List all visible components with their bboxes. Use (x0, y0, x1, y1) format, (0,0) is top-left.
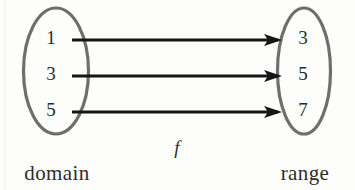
range-label: range (281, 161, 330, 185)
mapping-arrow-2 (72, 70, 282, 82)
domain-element-1: 3 (46, 63, 56, 84)
domain-element-0: 1 (46, 27, 56, 48)
function-label: f (174, 137, 182, 158)
range-element-2: 7 (298, 99, 308, 120)
function-mapping-diagram: 1 3 5 3 5 7 f domain range (0, 0, 355, 190)
diagram-canvas: 1 3 5 3 5 7 f domain range (0, 0, 355, 190)
domain-label: domain (24, 161, 89, 185)
mapping-arrow-1 (72, 34, 282, 46)
range-element-1: 5 (298, 63, 308, 84)
range-element-0: 3 (298, 27, 308, 48)
domain-ellipse (24, 8, 89, 134)
mapping-arrow-3 (72, 106, 282, 118)
domain-element-2: 5 (46, 99, 56, 120)
